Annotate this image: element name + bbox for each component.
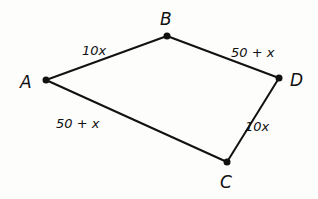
vertex-d-label: D [290, 70, 303, 90]
edge-a-b-label: 10x [82, 43, 107, 58]
vertex-b-label: B [160, 9, 172, 29]
edge-a-b [46, 36, 167, 80]
vertex-a-label: A [19, 72, 32, 92]
vertex-b-dot [164, 33, 171, 40]
edge-b-d-label: 50 + x [231, 45, 275, 60]
network-diagram: A B D C 10x 50 + x 50 + x 10x [0, 0, 318, 199]
edge-a-c-label: 50 + x [56, 116, 100, 131]
vertex-c-label: C [220, 172, 232, 192]
vertex-a-dot [43, 77, 50, 84]
edge-d-c-label: 10x [245, 119, 270, 134]
vertex-c-dot [224, 159, 231, 166]
vertex-d-dot [276, 75, 283, 82]
